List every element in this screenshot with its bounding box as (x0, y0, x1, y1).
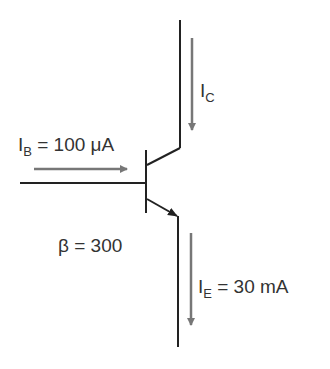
emitter-lead (147, 199, 177, 216)
ic-label: IC (200, 80, 215, 102)
beta-label: β = 300 (58, 235, 122, 257)
ib-label: IB = 100 μA (18, 134, 114, 156)
ie-label: IE = 30 mA (198, 276, 289, 298)
transistor-diagram (0, 0, 330, 369)
collector-lead (147, 148, 180, 165)
